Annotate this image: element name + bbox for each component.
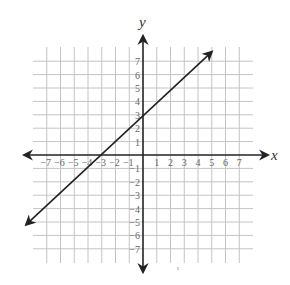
x-tick-label: 7 — [237, 157, 242, 168]
x-tick-label: 5 — [209, 157, 214, 168]
y-tick-label: −3 — [129, 190, 140, 201]
axes: x y — [24, 14, 278, 272]
x-tick-label: −6 — [54, 157, 65, 168]
x-tick-label: −7 — [40, 157, 51, 168]
y-tick-label: −6 — [129, 230, 140, 241]
y-tick-label: 4 — [135, 96, 140, 107]
x-tick-label: −5 — [68, 157, 79, 168]
x-tick-label: 2 — [168, 157, 173, 168]
x-tick-label: −4 — [82, 157, 93, 168]
y-tick-label: 5 — [135, 83, 140, 94]
y-tick-label: −5 — [129, 217, 140, 228]
y-tick-label: 7 — [135, 56, 140, 67]
y-tick-label: −2 — [129, 177, 140, 188]
x-axis-label: x — [270, 147, 278, 163]
y-tick-label: 2 — [135, 123, 140, 134]
x-tick-label: 6 — [223, 157, 228, 168]
y-axis-label: y — [137, 14, 146, 30]
coordinate-plane: x y −7−6−5−4−3−2−112345677654321−1−2−3−4… — [0, 0, 290, 285]
y-tick-label: −7 — [129, 244, 140, 255]
y-tick-label: 1 — [135, 137, 140, 148]
x-tick-label: 4 — [196, 157, 201, 168]
x-tick-label: 3 — [182, 157, 187, 168]
x-tick-label: 1 — [154, 157, 159, 168]
y-tick-label: −4 — [129, 204, 140, 215]
y-tick-label: −1 — [129, 163, 140, 174]
stray-mark: ı — [177, 264, 179, 272]
x-tick-label: −2 — [109, 157, 120, 168]
y-tick-label: 6 — [135, 70, 140, 81]
